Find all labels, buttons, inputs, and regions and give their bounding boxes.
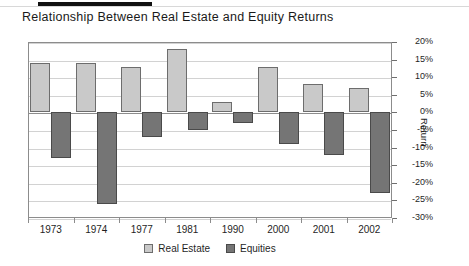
y-axis-tick-label: 10%: [399, 71, 433, 81]
bar-equities: [51, 112, 71, 158]
x-axis-tick: [74, 218, 75, 223]
bar-equities: [142, 112, 162, 137]
bar-equities: [370, 112, 390, 193]
x-axis-tick-label: 2001: [301, 224, 347, 235]
y-axis-tick-label: -30%: [399, 212, 433, 222]
bar-equities: [188, 112, 208, 130]
y-axis-tick-label: 15%: [399, 54, 433, 64]
bar-real-estate: [30, 63, 50, 112]
bar-real-estate: [167, 49, 187, 112]
bar-real-estate: [349, 88, 369, 113]
y-axis-tick-label: -25%: [399, 194, 433, 204]
x-axis-tick: [301, 218, 302, 223]
y-axis-tick: [392, 112, 397, 113]
y-axis-tick-label: 0%: [399, 106, 433, 116]
x-axis-tick-label: 1973: [28, 224, 74, 235]
scan-artifact-line: [0, 6, 469, 7]
y-axis-tick-label: 20%: [399, 36, 433, 46]
x-axis-tick: [210, 218, 211, 223]
legend-label-equities: Equities: [240, 243, 276, 254]
y-axis-tick-label: -20%: [399, 177, 433, 187]
bar-real-estate: [258, 67, 278, 113]
x-axis-tick-label: 1977: [119, 224, 165, 235]
chart-title: Relationship Between Real Estate and Equ…: [22, 10, 334, 24]
bar-equities: [324, 112, 344, 154]
x-axis-tick: [347, 218, 348, 223]
x-axis-tick-label: 2000: [256, 224, 302, 235]
y-axis-tick: [392, 200, 397, 201]
y-axis-tick: [392, 42, 397, 43]
chart-legend: Real Estate Equities: [0, 243, 420, 254]
x-axis-tick: [119, 218, 120, 223]
bar-real-estate: [121, 67, 141, 113]
x-axis-tick: [392, 218, 393, 223]
y-axis-tick-label: -15%: [399, 159, 433, 169]
x-axis-tick-label: 1981: [165, 224, 211, 235]
y-axis-tick: [392, 165, 397, 166]
x-axis-tick-label: 1990: [210, 224, 256, 235]
y-axis-tick-label: 5%: [399, 89, 433, 99]
bar-equities: [233, 112, 253, 123]
y-axis-tick: [392, 77, 397, 78]
x-axis-tick: [28, 218, 29, 223]
bar-equities: [97, 112, 117, 204]
legend-swatch-equities: [226, 244, 235, 253]
bar-equities: [279, 112, 299, 144]
y-axis-tick: [392, 95, 397, 96]
bar-real-estate: [212, 102, 232, 113]
x-axis-tick: [256, 218, 257, 223]
legend-label-real-estate: Real Estate: [158, 243, 210, 254]
legend-item-real-estate: Real Estate: [144, 243, 210, 254]
legend-swatch-real-estate: [144, 244, 153, 253]
bar-real-estate: [76, 63, 96, 112]
x-axis-tick-label: 1974: [74, 224, 120, 235]
y-axis-tick: [392, 60, 397, 61]
x-axis-tick-label: 2002: [347, 224, 393, 235]
y-axis-tick: [392, 130, 397, 131]
bar-real-estate: [303, 84, 323, 112]
y-axis-title: Return: [419, 118, 430, 147]
x-axis-tick: [165, 218, 166, 223]
legend-item-equities: Equities: [226, 243, 276, 254]
y-axis-tick: [392, 148, 397, 149]
y-axis-tick: [392, 183, 397, 184]
bar-series-layer: [28, 42, 392, 218]
